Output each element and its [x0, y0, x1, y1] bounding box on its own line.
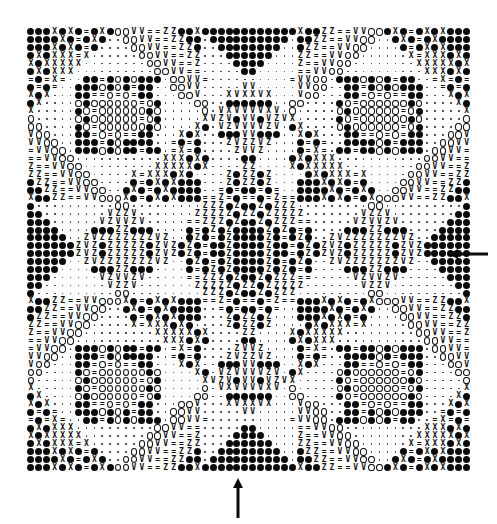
open-circle-glyph: [391, 369, 399, 377]
small-dot-glyph: [407, 424, 415, 432]
filled-circle-glyph: [241, 218, 249, 226]
open-circle-glyph: [415, 163, 423, 171]
letter-glyph: X: [312, 345, 320, 353]
filled-circle-glyph: [35, 194, 43, 202]
letter-glyph: =: [360, 131, 368, 139]
small-dot-glyph: [43, 282, 51, 290]
letter-glyph: =: [98, 139, 106, 147]
letter-glyph: V: [431, 329, 439, 337]
letter-glyph: X: [130, 305, 138, 313]
filled-circle-glyph: [27, 242, 35, 250]
filled-circle-glyph: [154, 115, 162, 123]
letter-glyph: V: [185, 83, 193, 91]
filled-circle-glyph: [288, 123, 296, 131]
open-circle-glyph: [383, 369, 391, 377]
open-circle-glyph: [383, 400, 391, 408]
small-dot-glyph: [122, 68, 130, 76]
small-dot-glyph: [281, 171, 289, 179]
small-dot-glyph: [281, 44, 289, 52]
open-circle-glyph: [391, 123, 399, 131]
letter-glyph: =: [344, 464, 352, 472]
small-dot-glyph: [217, 60, 225, 68]
small-dot-glyph: [447, 384, 455, 392]
open-circle-glyph: [376, 345, 384, 353]
open-circle-glyph: [288, 384, 296, 392]
small-dot-glyph: [431, 83, 439, 91]
small-dot-glyph: [122, 337, 130, 345]
filled-circle-glyph: [43, 258, 51, 266]
open-circle-glyph: [360, 448, 368, 456]
letter-glyph: =: [138, 297, 146, 305]
open-circle-glyph: [98, 369, 106, 377]
small-dot-glyph: [288, 179, 296, 187]
small-dot-glyph: [281, 91, 289, 99]
filled-circle-glyph: [273, 464, 281, 472]
small-dot-glyph: [383, 313, 391, 321]
open-circle-glyph: [383, 392, 391, 400]
open-circle-glyph: [296, 99, 304, 107]
letter-glyph: X: [193, 464, 201, 472]
small-dot-glyph: [344, 424, 352, 432]
filled-circle-glyph: [43, 44, 51, 52]
open-circle-glyph: [344, 377, 352, 385]
small-dot-glyph: [288, 52, 296, 60]
open-circle-glyph: [35, 361, 43, 369]
letter-glyph: X: [328, 337, 336, 345]
filled-circle-glyph: [185, 464, 193, 472]
filled-circle-glyph: [273, 448, 281, 456]
filled-circle-glyph: [399, 266, 407, 274]
letter-glyph: X: [178, 171, 186, 179]
open-circle-glyph: [376, 289, 384, 297]
small-dot-glyph: [59, 123, 67, 131]
filled-circle-glyph: [27, 274, 35, 282]
letter-glyph: Z: [146, 258, 154, 266]
letter-glyph: =: [185, 353, 193, 361]
small-dot-glyph: [209, 424, 217, 432]
small-dot-glyph: [178, 202, 186, 210]
filled-circle-glyph: [75, 384, 83, 392]
open-circle-glyph: [114, 131, 122, 139]
filled-circle-glyph: [257, 171, 265, 179]
letter-glyph: X: [43, 400, 51, 408]
letter-glyph: Z: [360, 218, 368, 226]
letter-glyph: V: [233, 400, 241, 408]
filled-circle-glyph: [154, 392, 162, 400]
small-dot-glyph: [114, 313, 122, 321]
open-circle-glyph: [344, 432, 352, 440]
small-dot-glyph: [201, 171, 209, 179]
filled-circle-glyph: [75, 91, 83, 99]
small-dot-glyph: [90, 432, 98, 440]
letter-glyph: Z: [130, 258, 138, 266]
filled-circle-glyph: [241, 440, 249, 448]
small-dot-glyph: [217, 345, 225, 353]
letter-glyph: Z: [233, 274, 241, 282]
filled-circle-glyph: [352, 400, 360, 408]
letter-glyph: V: [455, 353, 463, 361]
open-circle-glyph: [360, 36, 368, 44]
letter-glyph: =: [241, 297, 249, 305]
open-circle-glyph: [114, 28, 122, 36]
letter-glyph: V: [154, 258, 162, 266]
small-dot-glyph: [281, 400, 289, 408]
filled-circle-glyph: [249, 242, 257, 250]
small-dot-glyph: [51, 369, 59, 377]
small-dot-glyph: [201, 424, 209, 432]
small-dot-glyph: [376, 448, 384, 456]
small-dot-glyph: [288, 361, 296, 369]
filled-circle-glyph: [130, 147, 138, 155]
small-dot-glyph: [273, 416, 281, 424]
small-dot-glyph: [114, 179, 122, 187]
small-dot-glyph: [178, 234, 186, 242]
pattern-row: XXXXXXVV==ZZ==VVXXXXXX: [27, 432, 471, 440]
small-dot-glyph: [233, 163, 241, 171]
letter-glyph: X: [423, 464, 431, 472]
filled-circle-glyph: [82, 345, 90, 353]
filled-circle-glyph: [249, 28, 257, 36]
filled-circle-glyph: [209, 242, 217, 250]
letter-glyph: X: [296, 28, 304, 36]
open-circle-glyph: [106, 194, 114, 202]
open-circle-glyph: [391, 305, 399, 313]
filled-circle-glyph: [75, 345, 83, 353]
filled-circle-glyph: [27, 464, 35, 472]
small-dot-glyph: [312, 289, 320, 297]
